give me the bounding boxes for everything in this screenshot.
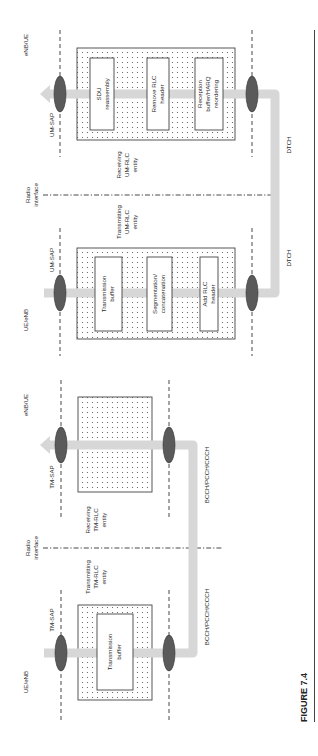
tm-tx-sap-icon <box>55 635 67 671</box>
um-tx-func-2-line-1: Segmentation/ <box>151 274 158 314</box>
um-tx-phy-sap-icon <box>246 275 258 311</box>
um-tx-func-1-line-1: Transmission <box>100 275 107 312</box>
um-mode-diagram: eNB/UE UM-SAP UE/eNB UM-SAP Radio interf… <box>22 30 292 356</box>
um-tx-func-2-line-2: concatenation <box>159 274 166 313</box>
um-rx-func-1-line-3: reordering <box>212 79 219 108</box>
tm-tx-phy-sap-icon <box>163 635 175 671</box>
um-receiving-entity-label-3: entity <box>131 157 138 173</box>
um-rx-func-2-line-2: header <box>158 84 165 103</box>
um-transmitting-entity-label-2: UM-RLC <box>123 209 130 234</box>
um-rx-func-2-line-1: Remove RLC <box>150 75 157 113</box>
tm-tx-sap-label: TM-SAP <box>48 608 55 631</box>
tm-transmitting-entity-label-3: entity <box>100 569 107 585</box>
tm-arrowhead-icon <box>40 436 50 454</box>
um-arrowhead-icon <box>40 85 50 103</box>
um-rx-sap-label: UM-SAP <box>48 113 55 137</box>
um-rx-sap-icon <box>54 76 66 112</box>
tm-tx-func-1-line-1: Transmission <box>106 633 113 670</box>
um-rx-phy-sap-icon <box>246 76 258 112</box>
um-right-node-label: eNB/UE <box>22 34 29 56</box>
um-rx-func-3-line-1: SDU <box>95 87 102 100</box>
tm-rx-sap-icon <box>55 427 67 463</box>
um-tx-func-3-line-1: Add RLC <box>201 281 208 307</box>
tm-receiving-entity-label-2: TM-RLC <box>92 508 99 532</box>
tm-tx-channel-label: BCCH/PCCH/CCCH <box>203 589 210 645</box>
um-transmitting-entity-label-3: entity <box>131 214 138 230</box>
um-rx-channel-label: DTCH <box>285 136 292 153</box>
um-receiving-entity-label-1: Receiving <box>115 151 122 179</box>
um-radio-interface-label-1: Radio <box>24 186 31 203</box>
tm-rx-phy-sap-icon <box>163 427 175 463</box>
tm-radio-interface-label-1: Radio <box>24 539 31 556</box>
tm-rx-sap-label: TM-SAP <box>48 465 55 488</box>
tm-right-node-label: eNB/UE <box>22 394 29 416</box>
tm-radio-interface-label-2: interface <box>32 536 39 560</box>
um-tx-channel-label: DTCH <box>285 249 292 266</box>
um-tx-func-1-line-2: buffer <box>108 286 115 302</box>
um-tx-sap-label: UM-SAP <box>48 248 55 272</box>
um-tx-func-3-line-2: header <box>209 284 216 303</box>
tm-mode-diagram: eNB/UE TM-SAP UE/eNB TM-SAP Radio interf… <box>22 380 222 720</box>
tm-left-node-label: UE/eNB <box>22 671 29 693</box>
um-tx-sap-icon <box>54 275 66 311</box>
tm-receiving-entity-label-1: Receiving <box>84 506 91 534</box>
um-func-sdu-reassembly <box>90 58 114 130</box>
figure-caption: FIGURE 7.4 <box>299 673 309 722</box>
um-rx-func-3-line-2: reassembly <box>103 77 110 110</box>
um-receiving-entity-label-2: UM-RLC <box>123 152 130 177</box>
um-transmitting-entity-label-1: Transmitting <box>115 205 122 239</box>
um-rx-func-1-line-2: buffer/HARQ <box>204 76 211 111</box>
tm-tx-func-1-line-2: buffer <box>115 644 122 660</box>
um-left-node-label: UE/eNB <box>22 309 29 331</box>
rlc-modes-diagram: eNB/UE UM-SAP UE/eNB UM-SAP Radio interf… <box>0 0 318 756</box>
tm-receiving-entity-label-3: entity <box>100 512 107 528</box>
um-rx-func-1-line-1: Reception <box>196 80 203 108</box>
tm-transmitting-entity-label-1: Transmitting <box>84 560 91 594</box>
tm-transmitting-entity-label-2: TM-RLC <box>92 565 99 589</box>
um-radio-interface-label-2: interface <box>32 183 39 207</box>
tm-rx-channel-label: BCCH/PCCH/CCCH <box>203 447 210 503</box>
